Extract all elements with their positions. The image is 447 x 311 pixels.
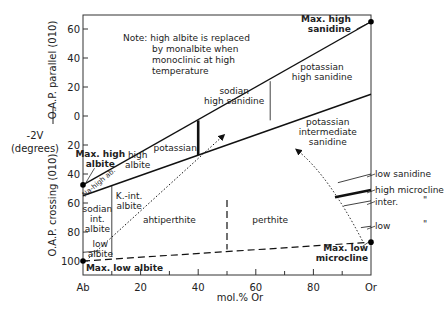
low-sanidine-line xyxy=(338,174,371,183)
potassian-high-sanidine-label-line: potassian xyxy=(300,62,343,72)
inter-microcline-label: inter. xyxy=(375,197,398,207)
max-low-microcline-label-line: Max. low xyxy=(323,243,368,253)
inter-microcline-label-ditto: " xyxy=(423,195,427,205)
perthite-label-line: perthite xyxy=(252,215,288,225)
potassian-intermediate-sanidine-label-line: potassian xyxy=(306,117,349,127)
y-tick-label: 60 xyxy=(67,24,80,35)
y-tick-label: 0 xyxy=(74,111,80,122)
note-line: Note: high albite is replaced xyxy=(123,33,250,43)
x-tick-label: Or xyxy=(365,282,378,293)
sodian-high-sanidine-label-line: high sanidine xyxy=(204,96,265,106)
k-int-albite-label-line: K.-int. xyxy=(116,191,143,201)
note-line: by monalbite when xyxy=(152,44,238,54)
low-microcline-label: low xyxy=(375,221,390,231)
potassian-intermediate-sanidine-label: potassianintermediatesanidine xyxy=(299,117,357,147)
y-tick-label: 80 xyxy=(67,227,80,238)
low-microcline-line xyxy=(361,226,371,227)
max-high-albite-label-line: Max. high xyxy=(75,149,125,159)
y-tick-label: 40 xyxy=(67,53,80,64)
sodian-int-albite-label: sodianint.albite xyxy=(83,204,113,234)
low-microcline-label-ditto: " xyxy=(423,219,427,229)
inter-microcline-line xyxy=(344,201,371,206)
max-high-sanidine-leader xyxy=(357,22,370,29)
max-high-sanidine-label: Max. highsanidine xyxy=(301,14,351,34)
potassian-label: potassian xyxy=(153,143,196,153)
max-high-sanidine-label-line: sanidine xyxy=(308,24,351,34)
low-sanidine-label: low sanidine xyxy=(375,169,432,179)
sodian-int-albite-label-line: int. xyxy=(90,214,105,224)
y-tick-label: 40 xyxy=(67,169,80,180)
sodian-high-sanidine-label-line: sodian xyxy=(219,86,249,96)
side-labels: low sanidinehigh microclineinter."low" xyxy=(367,169,444,231)
sodian-high-sanidine-label: sodianhigh sanidine xyxy=(204,86,265,106)
max-low-microcline-label: Max. lowmicrocline xyxy=(316,243,368,263)
max-high-albite-point xyxy=(80,182,86,188)
x-tick-label: Ab xyxy=(76,282,89,293)
potassian-label-line: potassian xyxy=(153,143,196,153)
sodian-int-albite-label-line: sodian xyxy=(83,204,113,214)
max-high-sanidine-point xyxy=(368,19,374,25)
y-axis-upper-label: O.A.P. parallel (010) xyxy=(47,21,58,120)
y-tick-label: 60 xyxy=(67,198,80,209)
x-axis-label: mol.% Or xyxy=(217,292,264,303)
x-tick-label: 80 xyxy=(307,282,320,293)
max-low-microcline-label-line: microcline xyxy=(316,253,368,263)
antiperthite-label: ahtiperthite xyxy=(143,215,196,225)
max-low-albite-label: Max. low albite xyxy=(86,263,163,273)
high-microcline-line xyxy=(335,190,371,197)
y-tick-label: 100 xyxy=(61,256,80,267)
note-line: monoclinic at high xyxy=(152,55,235,65)
high-albite-label: highalbite xyxy=(125,150,151,170)
max-high-sanidine-label-line: Max. high xyxy=(301,14,351,24)
x-tick-label: 60 xyxy=(249,282,262,293)
note-line: temperature xyxy=(152,66,209,76)
sodian-int-albite-label-line: albite xyxy=(85,224,111,234)
microcline-arrow xyxy=(296,149,362,240)
k-int-albite-label: K.-int.albite xyxy=(116,191,143,211)
k-int-albite-label-line: albite xyxy=(116,201,142,211)
potassian-high-sanidine-label: potassianhigh sanidine xyxy=(292,62,353,82)
y-axis-lower-label: O.A.P. crossing (010) xyxy=(47,154,58,257)
x-tick-label: 20 xyxy=(134,282,147,293)
potassian-high-sanidine-label-line: high sanidine xyxy=(292,72,353,82)
max-low-albite-label-line: Max. low albite xyxy=(86,263,163,273)
potassian-intermediate-sanidine-label-line: sanidine xyxy=(309,137,347,147)
y-tick-label: 20 xyxy=(67,82,80,93)
x-tick-label: 40 xyxy=(192,282,205,293)
potassian-intermediate-sanidine-label-line: intermediate xyxy=(299,127,357,137)
high-albite-label-line: high xyxy=(128,150,148,160)
note-block: Note: high albite is replaced by monalbi… xyxy=(123,33,250,76)
y-axis-main-label: -2V xyxy=(27,130,44,141)
low-albite-label-line: low xyxy=(93,239,108,249)
feldspar-optic-angle-diagram: -2V (degrees) O.A.P. parallel (010) O.A.… xyxy=(0,0,447,311)
y-axis-unit-label: (degrees) xyxy=(11,143,59,154)
perthite-label: perthite xyxy=(252,215,288,225)
low-albite-label: lowalbite xyxy=(88,239,114,259)
antiperthite-label-line: ahtiperthite xyxy=(143,215,196,225)
low-albite-label-line: albite xyxy=(88,249,114,259)
high-microcline-label: high microcline xyxy=(375,185,444,195)
high-albite-label-line: albite xyxy=(125,160,151,170)
